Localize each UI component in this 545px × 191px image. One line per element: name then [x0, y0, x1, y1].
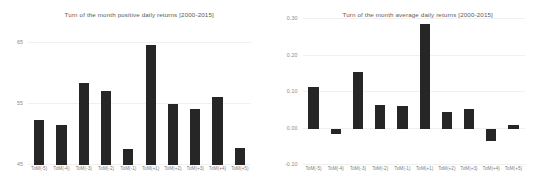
y-axis-tick-label: 65	[17, 39, 23, 45]
x-axis-tick-label: ToM(-5)	[303, 166, 325, 171]
plot-area-left: 455565	[28, 43, 251, 165]
y-axis-tick-label: 55	[17, 100, 23, 106]
x-axis-tick-label: ToM(+2)	[436, 166, 458, 171]
bar-slot	[117, 43, 139, 165]
x-axis-labels-right: ToM(-5)ToM(-4)ToM(-3)ToM(-2)ToM(-1)ToM(+…	[303, 166, 525, 171]
bar-slot	[391, 19, 413, 165]
x-axis-tick-label: ToM(-2)	[95, 166, 117, 171]
x-axis-tick-label: ToM(+5)	[229, 166, 251, 171]
chart-panel-positive-returns: Turn of the month positive daily returns…	[0, 0, 273, 191]
bar	[353, 72, 363, 129]
x-axis-tick-label: ToM(+3)	[458, 166, 480, 171]
bar	[34, 120, 44, 165]
bar-slot	[436, 19, 458, 165]
bar	[442, 112, 452, 128]
x-axis-tick-label: ToM(-4)	[325, 166, 347, 171]
x-axis-tick-label: ToM(+5)	[502, 166, 524, 171]
bar	[464, 109, 474, 128]
x-axis-tick-label: ToM(+4)	[480, 166, 502, 171]
x-axis-tick-label: ToM(-5)	[28, 166, 50, 171]
y-axis-tick-label: 45	[17, 161, 23, 167]
bar	[101, 91, 111, 165]
bar-slot	[50, 43, 72, 165]
bar-series-left	[28, 43, 251, 165]
bar-slot	[458, 19, 480, 165]
bar	[331, 129, 341, 134]
bar-slot	[480, 19, 502, 165]
bar	[168, 104, 178, 165]
x-axis-tick-label: ToM(-3)	[73, 166, 95, 171]
bar	[190, 109, 200, 165]
plot-area-right: -0.100.000.100.200.30	[303, 19, 525, 165]
bar-slot	[303, 19, 325, 165]
bar-slot	[73, 43, 95, 165]
bar	[79, 83, 89, 165]
bar	[123, 149, 133, 165]
bar	[212, 97, 222, 165]
x-axis-tick-label: ToM(-3)	[347, 166, 369, 171]
x-axis-labels-left: ToM(-5)ToM(-4)ToM(-3)ToM(-2)ToM(-1)ToM(+…	[28, 166, 251, 171]
chart-title-left: Turn of the month positive daily returns…	[6, 11, 273, 18]
bar	[235, 148, 245, 165]
x-axis-tick-label: ToM(-1)	[391, 166, 413, 171]
bar	[56, 125, 66, 165]
bar-slot	[229, 43, 251, 165]
x-axis-tick-label: ToM(-2)	[369, 166, 391, 171]
chart-panel-average-returns: Turn of the month average daily returns …	[273, 0, 545, 191]
chart-title-right: Turn of the month average daily returns …	[291, 11, 545, 18]
bar-slot	[206, 43, 228, 165]
x-axis-tick-label: ToM(+2)	[162, 166, 184, 171]
x-axis-tick-label: ToM(+4)	[206, 166, 228, 171]
y-axis-tick-label: 0.30	[287, 15, 298, 21]
bar-series-right	[303, 19, 525, 165]
x-axis-tick-label: ToM(+1)	[139, 166, 161, 171]
x-axis-tick-label: ToM(-4)	[50, 166, 72, 171]
bar	[486, 129, 496, 142]
x-axis-tick-label: ToM(-1)	[117, 166, 139, 171]
bar-slot	[347, 19, 369, 165]
dual-bar-chart-figure: Turn of the month positive daily returns…	[0, 0, 545, 191]
bar-slot	[325, 19, 347, 165]
bar-slot	[414, 19, 436, 165]
y-axis-tick-label: -0.10	[285, 161, 298, 167]
bar-slot	[162, 43, 184, 165]
bar	[420, 24, 430, 128]
bar	[375, 105, 385, 129]
y-axis-tick-label: 0.00	[287, 125, 298, 131]
bar-slot	[95, 43, 117, 165]
bar	[308, 87, 318, 129]
x-axis-tick-label: ToM(+3)	[184, 166, 206, 171]
bar	[146, 45, 156, 165]
y-axis-tick-label: 0.20	[287, 52, 298, 58]
bar	[508, 125, 518, 129]
bar	[397, 106, 407, 129]
bar-slot	[369, 19, 391, 165]
bar-slot	[139, 43, 161, 165]
x-axis-tick-label: ToM(+1)	[414, 166, 436, 171]
bar-slot	[28, 43, 50, 165]
bar-slot	[502, 19, 524, 165]
bar-slot	[184, 43, 206, 165]
y-axis-tick-label: 0.10	[287, 88, 298, 94]
